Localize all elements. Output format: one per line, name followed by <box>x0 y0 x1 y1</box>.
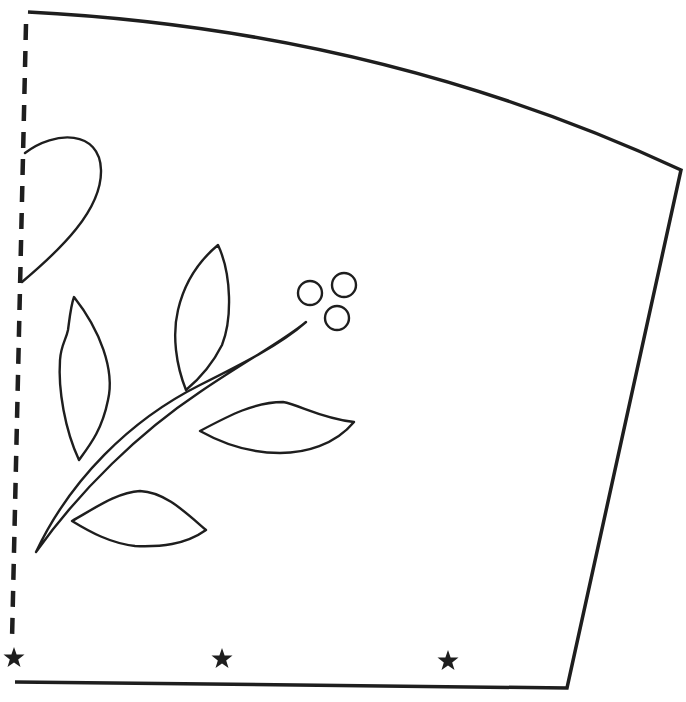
pattern-outline <box>15 12 681 688</box>
berry-2 <box>332 273 356 297</box>
leaf-left <box>60 297 110 460</box>
leaf-top <box>175 245 229 390</box>
star-icon <box>438 650 459 670</box>
fold-line <box>12 24 26 640</box>
leaf-bottom <box>72 491 206 546</box>
star-icon <box>212 648 233 668</box>
pattern-drawing <box>0 0 686 702</box>
berry-1 <box>298 281 322 305</box>
heart-curve <box>22 137 101 282</box>
star-icon <box>4 647 25 667</box>
berry-3 <box>325 306 349 330</box>
leaf-right <box>200 402 354 453</box>
pattern-template <box>0 0 686 702</box>
